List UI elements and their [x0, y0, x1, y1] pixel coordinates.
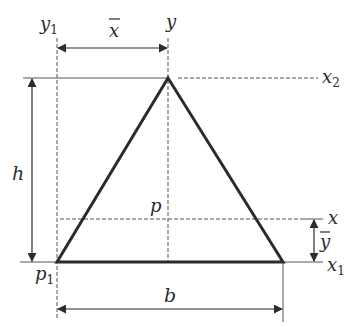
label-x: x	[328, 207, 338, 228]
label-p-centroid: p	[150, 195, 162, 216]
reference-axes	[20, 38, 323, 322]
label-x2: x2	[322, 66, 340, 90]
triangle-centroid-diagram: y1 y x x2 h p x y x1 p1 b	[0, 0, 361, 327]
triangle-shape	[57, 78, 283, 262]
label-y1: y1	[39, 13, 58, 37]
label-h: h	[12, 162, 24, 184]
label-b: b	[164, 284, 176, 306]
label-p1: p1	[35, 263, 54, 287]
label-y: y	[165, 11, 177, 32]
label-x-bar: x	[109, 20, 119, 41]
label-y-bar: y	[319, 231, 331, 252]
label-x1: x1	[327, 254, 345, 278]
